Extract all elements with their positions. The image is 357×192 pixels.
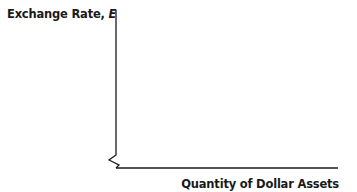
x-axis-label: Quantity of Dollar Assets [181,177,339,191]
axes-graphic [0,0,357,192]
vertical-axis [109,10,119,168]
